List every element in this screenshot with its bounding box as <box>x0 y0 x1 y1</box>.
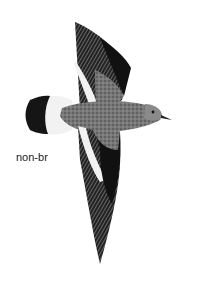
lower-wing <box>78 126 121 264</box>
upper-wing <box>74 22 131 112</box>
bird-drawing <box>0 0 207 284</box>
bird-illustration: non-br <box>0 0 207 284</box>
plumage-label: non-br <box>16 151 48 163</box>
body <box>60 101 172 132</box>
